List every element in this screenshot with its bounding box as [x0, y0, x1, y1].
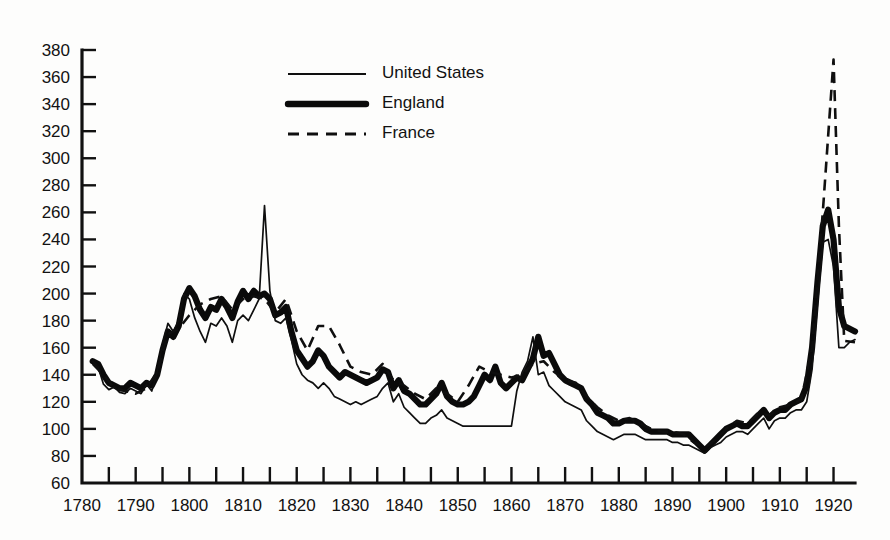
y-axis-tick-label: 180 — [42, 312, 70, 331]
y-axis-tick-label: 140 — [42, 366, 70, 385]
x-axis-tick-label: 1860 — [493, 496, 531, 515]
y-axis-tick-label: 300 — [42, 149, 70, 168]
y-axis-tick-label: 220 — [42, 258, 70, 277]
legend-item-label: England — [382, 93, 444, 112]
x-axis-tick-label: 1920 — [815, 496, 853, 515]
y-axis-tick-labels: 3803603403203002802602402202001801601401… — [42, 41, 70, 493]
x-axis-tick-label: 1910 — [761, 496, 799, 515]
x-axis-tick-label: 1810 — [224, 496, 262, 515]
y-axis-tick-label: 240 — [42, 230, 70, 249]
x-axis-tick-label: 1850 — [439, 496, 477, 515]
legend-item-label: United States — [382, 63, 484, 82]
price-index-line-chart: 3803603403203002802602402202001801601401… — [0, 0, 890, 540]
y-axis-tick-label: 320 — [42, 122, 70, 141]
y-axis-tick-label: 80 — [51, 447, 70, 466]
legend-item-label: France — [382, 123, 435, 142]
y-axis-tick-label: 360 — [42, 68, 70, 87]
x-axis-tick-label: 1830 — [331, 496, 369, 515]
x-axis-tick-labels: 1780179018001810182018301840185018601870… — [63, 496, 852, 515]
y-axis-tick-label: 60 — [51, 474, 70, 493]
y-axis-tick-label: 380 — [42, 41, 70, 60]
y-axis-tick-label: 100 — [42, 420, 70, 439]
x-axis-tick-label: 1840 — [385, 496, 423, 515]
x-axis-tick-label: 1890 — [654, 496, 692, 515]
x-axis-tick-label: 1820 — [278, 496, 316, 515]
x-axis-tick-label: 1790 — [117, 496, 155, 515]
y-axis-tick-label: 160 — [42, 339, 70, 358]
y-axis-tick-label: 260 — [42, 203, 70, 222]
x-axis-tick-label: 1880 — [600, 496, 638, 515]
y-axis-tick-label: 340 — [42, 95, 70, 114]
x-axis-tick-label: 1870 — [546, 496, 584, 515]
y-axis-tick-label: 280 — [42, 176, 70, 195]
y-axis-tick-label: 200 — [42, 285, 70, 304]
y-axis-tick-label: 120 — [42, 393, 70, 412]
x-axis-tick-label: 1800 — [170, 496, 208, 515]
x-axis-tick-label: 1780 — [63, 496, 101, 515]
chart-container: 3803603403203002802602402202001801601401… — [0, 0, 890, 540]
x-axis-tick-label: 1900 — [707, 496, 745, 515]
